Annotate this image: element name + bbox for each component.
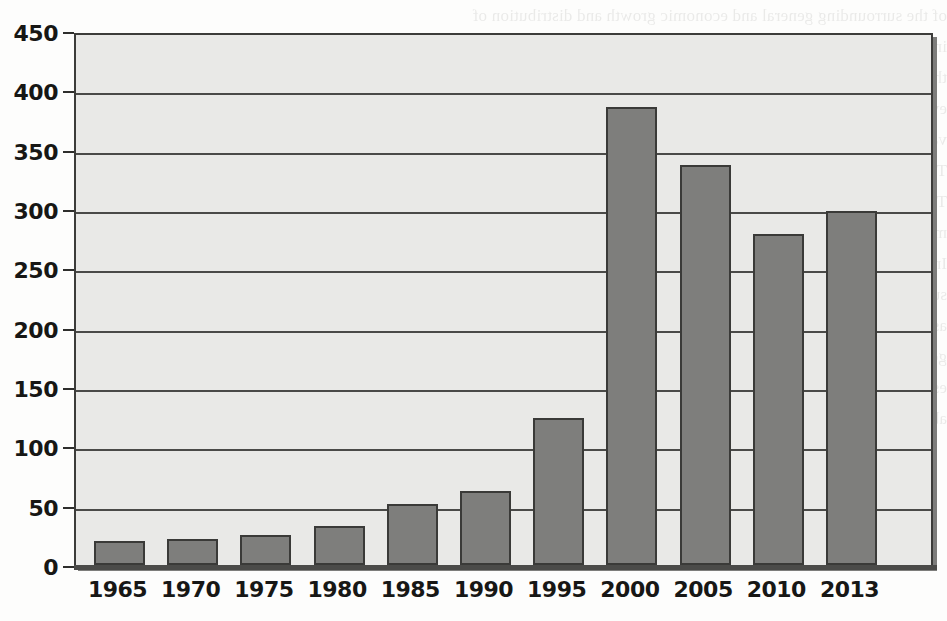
- bar-chart: 050100150200250300350400450 196519701975…: [0, 0, 947, 621]
- y-axis-tick-label: 300: [0, 199, 58, 224]
- y-axis-tick-label: 450: [0, 21, 58, 46]
- gridline: [76, 212, 931, 214]
- bar: [826, 211, 877, 565]
- y-axis-tick: [63, 329, 74, 331]
- bar: [94, 541, 145, 565]
- bar: [314, 526, 365, 565]
- y-axis-tick: [63, 210, 74, 212]
- bar: [606, 107, 657, 565]
- y-axis-tick: [63, 566, 74, 568]
- y-axis-tick: [63, 507, 74, 509]
- gridline: [76, 93, 931, 95]
- y-axis-tick: [63, 91, 74, 93]
- plot-area: [74, 33, 933, 567]
- y-axis-tick-label: 200: [0, 317, 58, 342]
- y-axis: 050100150200250300350400450: [0, 0, 58, 621]
- bar: [533, 418, 584, 565]
- y-axis-tick: [63, 32, 74, 34]
- y-axis-tick: [63, 151, 74, 153]
- bar: [460, 491, 511, 565]
- y-axis-tick: [63, 269, 74, 271]
- y-axis-tick-label: 50: [0, 495, 58, 520]
- y-axis-tick-label: 100: [0, 436, 58, 461]
- bar: [680, 165, 731, 565]
- gridline: [76, 153, 931, 155]
- bar: [387, 504, 438, 565]
- y-axis-tick-label: 250: [0, 258, 58, 283]
- y-axis-tick: [63, 447, 74, 449]
- x-axis-tick-label: 2013: [805, 577, 895, 602]
- y-axis-tick-label: 400: [0, 80, 58, 105]
- y-axis-tick-label: 350: [0, 139, 58, 164]
- y-axis-tick: [63, 388, 74, 390]
- bar: [753, 234, 804, 565]
- bar: [167, 539, 218, 565]
- y-axis-tick-label: 0: [0, 555, 58, 580]
- bar: [240, 535, 291, 565]
- y-axis-tick-label: 150: [0, 377, 58, 402]
- x-axis-baseline: [74, 565, 937, 570]
